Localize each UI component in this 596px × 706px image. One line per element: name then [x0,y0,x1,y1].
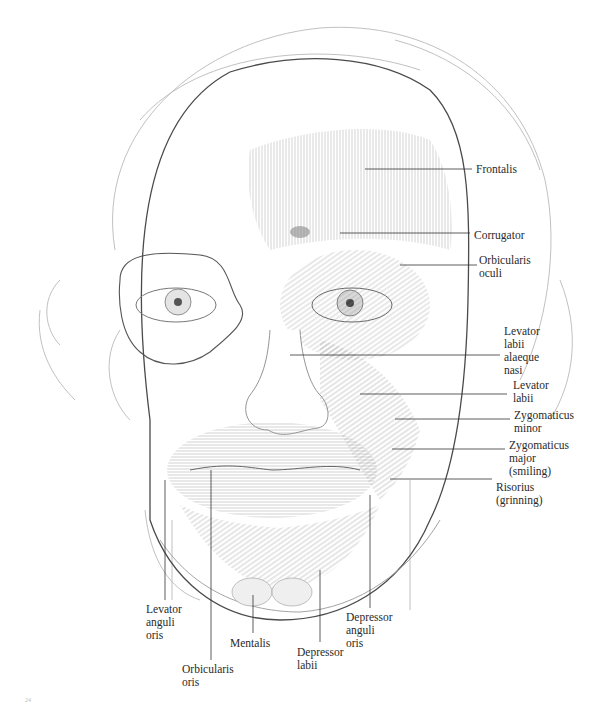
orbicularis-oculi-muscle [280,250,430,360]
label-frontalis: Frontalis [476,163,517,176]
left-ear [47,280,60,345]
label-risorius: Risorius (grinning) [496,481,543,507]
label-mentalis: Mentalis [230,637,270,650]
mentalis-muscle [232,578,272,606]
label-levator-labii-alaeque-nasi: Levator labii alaeque nasi [504,325,540,377]
right-ear [550,280,572,420]
label-orbicularis-oculi: Orbicularis oculi [479,254,531,280]
label-zygomaticus-major: Zygomaticus major (smiling) [509,439,569,478]
page-number: 24 [25,694,31,706]
label-depressor-anguli-oris: Depressor anguli oris [346,611,393,650]
label-zygomaticus-minor: Zygomaticus minor [514,409,574,435]
label-levator-anguli-oris: Levator anguli oris [146,603,182,642]
hair-line [140,54,420,120]
label-depressor-labii: Depressor labii [297,646,344,672]
frontalis-muscle [248,129,452,250]
label-levator-labii: Levator labii [513,379,549,405]
label-orbicularis-oris: Orbicularis oris [182,663,234,689]
label-corrugator: Corrugator [474,229,524,242]
